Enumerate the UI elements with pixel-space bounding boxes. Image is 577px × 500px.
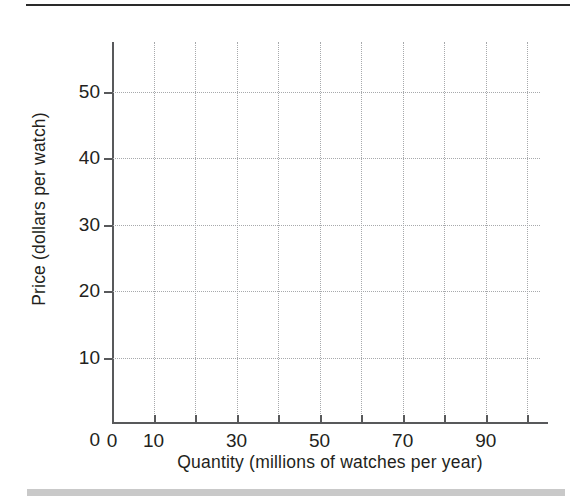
x-axis-tick (361, 415, 363, 424)
x-axis-tick (444, 415, 446, 424)
x-axis-tick-label: 50 (309, 430, 330, 452)
y-axis-tick-label: 40 (79, 147, 100, 169)
x-axis-tick (278, 415, 280, 424)
gridline-horizontal (112, 358, 540, 359)
top-divider-rule (26, 4, 570, 6)
x-axis-tick (403, 415, 405, 424)
x-axis-tick-label: 70 (392, 430, 413, 452)
x-axis-tick (527, 415, 529, 424)
x-axis-tick (195, 415, 197, 424)
y-axis-title: Price (dollars per watch) (26, 84, 52, 334)
x-axis-tick-label: 90 (475, 430, 496, 452)
x-axis-tick (237, 415, 239, 424)
x-axis-title: Quantity (millions of watches per year) (112, 452, 548, 473)
x-axis-tick (486, 415, 488, 424)
gridline-vertical (320, 42, 321, 424)
x-axis-tick-label: 0 (107, 430, 118, 452)
x-axis-tick-label: 30 (226, 430, 247, 452)
plot-area: 0103050709001020304050 (112, 42, 548, 424)
figure-container: Price (dollars per watch) 01030507090010… (0, 0, 577, 500)
x-axis-tick-label: 10 (143, 430, 164, 452)
y-axis-tick-label: 0 (89, 429, 100, 451)
gridline-horizontal (112, 225, 540, 226)
gridline-vertical (444, 42, 445, 424)
gridline-vertical (278, 42, 279, 424)
y-axis-tick (104, 291, 113, 293)
gridline-vertical (361, 42, 362, 424)
y-axis-tick-label: 10 (79, 347, 100, 369)
y-axis-tick (104, 158, 113, 160)
y-axis-tick (104, 225, 113, 227)
x-axis-tick (320, 415, 322, 424)
y-axis-tick (104, 358, 113, 360)
gridline-vertical (237, 42, 238, 424)
gridline-vertical (403, 42, 404, 424)
gridline-horizontal (112, 158, 540, 159)
gridline-horizontal (112, 92, 540, 93)
y-axis-line (112, 42, 114, 424)
x-axis-line (112, 422, 548, 424)
gridline-vertical (154, 42, 155, 424)
gridline-horizontal (112, 291, 540, 292)
y-axis-tick-label: 50 (79, 81, 100, 103)
gridline-vertical (195, 42, 196, 424)
gridline-vertical (527, 42, 528, 424)
x-axis-tick (154, 415, 156, 424)
gridline-vertical (486, 42, 487, 424)
y-axis-tick-label: 30 (79, 214, 100, 236)
y-axis-tick-label: 20 (79, 280, 100, 302)
bottom-gray-band (27, 489, 565, 496)
y-axis-tick (104, 92, 113, 94)
